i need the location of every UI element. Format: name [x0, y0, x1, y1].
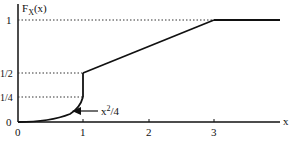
x-tick-label-0: 0 [15, 126, 21, 138]
x-tick-label-2: 2 [146, 126, 152, 138]
cdf-curve-quadratic [18, 97, 83, 122]
cdf-linear [83, 20, 214, 73]
x-tick-label-3: 3 [211, 126, 217, 138]
y-axis-label: FX(x) [22, 2, 47, 17]
x-tick-label-1: 1 [80, 126, 86, 138]
y-tick-label-1: 1 [6, 14, 12, 26]
y-tick-label-quarter: 1/4 [0, 92, 13, 103]
cdf-chart: 1 1/2 1/4 0 0 1 2 3 x FX(x) x2/4 [0, 0, 290, 146]
x-axis-label: x [283, 115, 289, 127]
y-axis-label-arg: (x) [34, 2, 47, 15]
y-tick-label-half: 1/2 [0, 68, 13, 79]
y-tick-label-0: 0 [6, 116, 12, 128]
annotation-rest: /4 [111, 105, 120, 117]
annotation-label: x2/4 [101, 104, 120, 117]
